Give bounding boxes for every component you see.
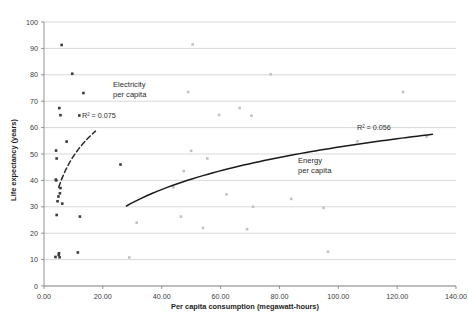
data-point: [58, 252, 61, 255]
data-point: [252, 206, 255, 209]
x-tick-label-80: 80.00: [270, 292, 288, 301]
x-tick-label-40: 40.00: [153, 292, 171, 301]
data-point: [59, 192, 62, 195]
data-point: [55, 214, 58, 217]
y-tick-label-50: 50: [30, 150, 38, 159]
data-point: [128, 256, 131, 259]
scatter-chart: 0102030405060708090100 0.0020.0040.0060.…: [0, 0, 468, 324]
data-point: [61, 202, 64, 205]
data-point: [65, 140, 68, 143]
x-tick-label-20: 20.00: [94, 292, 112, 301]
annotation-electricity-line1: Electricity: [113, 80, 146, 89]
data-point: [218, 114, 221, 117]
data-point: [246, 228, 249, 231]
y-tick-label-80: 80: [30, 70, 38, 79]
trendlines: [59, 131, 433, 206]
y-tick-label-90: 90: [30, 44, 38, 53]
data-point: [56, 200, 59, 203]
y-tick-label-20: 20: [30, 229, 38, 238]
series-electricity-per-capita-points: [54, 44, 122, 259]
annotation-energy-r-squared: R² = 0.056: [357, 123, 391, 132]
y-tick-label-0: 0: [34, 282, 38, 291]
axes: [41, 22, 456, 289]
x-tick-label-60: 60.00: [212, 292, 230, 301]
data-point: [250, 114, 253, 117]
data-point: [356, 140, 359, 143]
data-point: [119, 163, 122, 166]
x-axis-title: Per capita consumption (megawatt-hours): [171, 302, 319, 311]
x-axis-tick-labels: 0.0020.0040.0060.0080.00100.00120.00140.…: [37, 292, 467, 301]
y-tick-label-30: 30: [30, 202, 38, 211]
gridlines: [44, 22, 456, 286]
x-tick-label-120: 120.00: [386, 292, 408, 301]
y-tick-label-60: 60: [30, 123, 38, 132]
data-point: [55, 179, 58, 182]
data-point: [322, 207, 325, 210]
data-point: [225, 193, 228, 196]
data-point: [238, 107, 241, 110]
x-tick-label-140: 140.00: [445, 292, 467, 301]
y-axis-title: Life expectancy (years): [9, 119, 18, 201]
annotation-energy-line1: Energy: [298, 156, 322, 165]
trendline-energy: [126, 134, 432, 206]
data-point: [290, 198, 293, 201]
data-point: [187, 91, 190, 94]
data-point: [206, 157, 209, 160]
data-point: [82, 92, 85, 95]
data-point: [55, 157, 58, 160]
data-point: [191, 43, 194, 46]
data-point: [269, 73, 272, 76]
annotation-energy-line2b: per capita: [298, 166, 332, 175]
data-point: [54, 256, 57, 259]
annotation-electricity-r-squared: R² = 0.075: [82, 111, 116, 120]
data-point: [182, 170, 185, 173]
data-point: [190, 150, 193, 153]
chart-canvas: 0102030405060708090100 0.0020.0040.0060.…: [0, 0, 468, 324]
y-tick-label-100: 100: [26, 18, 38, 27]
data-point: [402, 91, 405, 94]
data-point: [327, 250, 330, 253]
data-point: [78, 114, 81, 117]
trendline-electricity: [59, 131, 96, 187]
data-point: [202, 227, 205, 230]
data-point: [180, 215, 183, 218]
data-point: [172, 186, 175, 189]
data-point: [135, 221, 138, 224]
data-point: [55, 149, 58, 152]
series-energy-per-capita-points: [128, 43, 428, 259]
x-tick-label-100: 100.00: [327, 292, 349, 301]
data-point: [58, 107, 61, 110]
data-point: [57, 195, 60, 198]
data-point: [58, 256, 61, 259]
y-tick-label-10: 10: [30, 255, 38, 264]
y-tick-label-70: 70: [30, 97, 38, 106]
x-tick-label-0: 0.00: [37, 292, 51, 301]
data-point: [59, 114, 62, 117]
data-point: [79, 215, 82, 218]
data-point: [77, 251, 80, 254]
annotation-electricity-line2: per capita: [113, 90, 147, 99]
y-tick-label-40: 40: [30, 176, 38, 185]
y-axis-tick-labels: 0102030405060708090100: [26, 18, 38, 291]
data-point: [71, 72, 74, 75]
data-point: [60, 44, 63, 47]
